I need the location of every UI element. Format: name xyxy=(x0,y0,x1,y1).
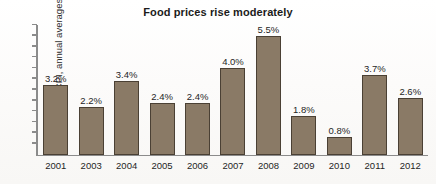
y-axis-tick xyxy=(32,77,37,79)
y-axis-tick xyxy=(32,121,37,123)
bar-value-label: 3.4% xyxy=(116,69,138,80)
bar-value-label: 2.2% xyxy=(80,95,102,106)
bar-slot: 2.4% xyxy=(180,25,215,155)
bar-value-label: 4.0% xyxy=(222,56,244,67)
x-axis-label-2011: 2011 xyxy=(357,160,392,171)
bar: 0.8% xyxy=(327,137,352,154)
bar: 2.6% xyxy=(398,98,423,154)
x-axis-line xyxy=(36,155,428,157)
plot-area: CPI, annual averages 3.2%2.2%3.4%2.4%2.4… xyxy=(36,25,428,156)
bar-value-label: 2.4% xyxy=(187,91,209,102)
bar-value-label: 3.2% xyxy=(45,73,67,84)
bar-slot: 2.6% xyxy=(393,25,428,155)
chart-title: Food prices rise moderately xyxy=(0,6,436,18)
bar: 1.8% xyxy=(291,116,316,155)
bar: 3.7% xyxy=(362,75,387,155)
y-axis-tick xyxy=(32,99,37,101)
bar-value-label: 2.6% xyxy=(399,86,421,97)
bar-slot: 2.4% xyxy=(144,25,179,155)
bar-slot: 0.8% xyxy=(322,25,357,155)
x-axis-labels: 2001200320042005200620072008200920102011… xyxy=(38,160,428,171)
x-axis-label-2010: 2010 xyxy=(322,160,357,171)
bar-slot: 5.5% xyxy=(251,25,286,155)
bar-slot: 3.2% xyxy=(38,25,73,155)
x-axis-label-2006: 2006 xyxy=(180,160,215,171)
y-axis-tick xyxy=(32,131,37,133)
bar-value-label: 3.7% xyxy=(364,63,386,74)
y-axis-tick xyxy=(32,142,37,144)
x-axis-label-2009: 2009 xyxy=(286,160,321,171)
bar: 3.2% xyxy=(43,85,68,154)
bar-slot: 1.8% xyxy=(286,25,321,155)
x-axis-label-2003: 2003 xyxy=(73,160,108,171)
y-axis-tick xyxy=(32,67,37,69)
bar-value-label: 2.4% xyxy=(151,91,173,102)
y-axis-tick xyxy=(32,56,37,58)
bar: 4.0% xyxy=(220,68,245,154)
bar-value-label: 0.8% xyxy=(329,125,351,136)
bar: 3.4% xyxy=(114,81,139,154)
y-axis-tick xyxy=(32,24,37,26)
bar-value-label: 5.5% xyxy=(258,24,280,35)
bar: 2.2% xyxy=(79,107,104,154)
bar-series: 3.2%2.2%3.4%2.4%2.4%4.0%5.5%1.8%0.8%3.7%… xyxy=(38,25,428,155)
y-axis-tick xyxy=(32,34,37,36)
x-axis-label-2005: 2005 xyxy=(144,160,179,171)
bar-slot: 2.2% xyxy=(73,25,108,155)
x-axis-label-2008: 2008 xyxy=(251,160,286,171)
x-axis-label-2012: 2012 xyxy=(393,160,428,171)
bar: 5.5% xyxy=(256,36,281,155)
y-axis-tick xyxy=(32,110,37,112)
x-axis-label-2001: 2001 xyxy=(38,160,73,171)
bar-slot: 4.0% xyxy=(215,25,250,155)
bar-value-label: 1.8% xyxy=(293,104,315,115)
bar-slot: 3.7% xyxy=(357,25,392,155)
y-axis-tick xyxy=(32,88,37,90)
bar: 2.4% xyxy=(185,103,210,155)
y-axis-tick xyxy=(32,45,37,47)
x-axis-label-2007: 2007 xyxy=(215,160,250,171)
chart-figure: Food prices rise moderately CPI, annual … xyxy=(0,0,436,184)
bar: 2.4% xyxy=(150,103,175,155)
bar-slot: 3.4% xyxy=(109,25,144,155)
x-axis-label-2004: 2004 xyxy=(109,160,144,171)
